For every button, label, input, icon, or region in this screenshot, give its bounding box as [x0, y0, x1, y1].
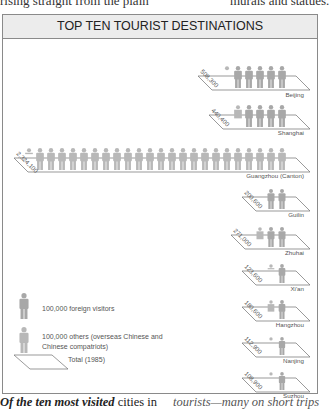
- other-visitor-figure: [113, 148, 121, 170]
- other-visitor-figure: [223, 148, 231, 170]
- foreign-visitor-figure: [279, 300, 286, 319]
- total-value-label: 271,000: [232, 227, 253, 248]
- other-visitor-partial-figure: [257, 227, 264, 239]
- other-visitor-figure: [69, 148, 77, 170]
- foreign-visitor-figure: [245, 66, 253, 88]
- other-visitor-figure: [201, 148, 209, 170]
- city-label: Hangzhou: [276, 321, 305, 328]
- other-visitor-figure: [146, 148, 154, 170]
- other-visitor-partial-figure: [268, 264, 275, 269]
- foreign-visitor-figure: [267, 66, 275, 88]
- total-value-label: 123,600: [243, 263, 264, 284]
- other-visitor-figure: [91, 148, 99, 170]
- foreign-visitor-figure: [278, 66, 286, 88]
- foreign-visitor-figure: [268, 227, 275, 247]
- article-text-bottom-right: tourists—many on short trips: [173, 395, 319, 410]
- other-visitor-figure: [212, 148, 220, 170]
- other-visitor-figure: [267, 148, 275, 170]
- total-value-label: 112,900: [243, 335, 264, 356]
- other-visitor-figure: [168, 148, 176, 170]
- city-label: Guilin: [288, 211, 304, 218]
- foreign-visitor-figure: [279, 337, 285, 355]
- foreign-visitor-figure: [279, 227, 286, 247]
- city-label: Guangzhou (Canton): [246, 172, 304, 179]
- other-visitor-partial-figure: [268, 300, 275, 311]
- other-visitor-figure: [157, 148, 165, 170]
- foreign-visitor-figure: [279, 189, 286, 209]
- legend-label-total: Total (1985): [68, 356, 105, 364]
- total-value-label: 440,400: [210, 107, 231, 128]
- other-visitor-partial-figure: [25, 148, 33, 154]
- other-visitor-partial-figure: [225, 66, 229, 70]
- legend-foreign-visitor-icon: [19, 293, 28, 319]
- foreign-visitor-figure: [279, 264, 286, 283]
- other-visitor-partial-figure: [234, 105, 242, 118]
- bold-lead: Of the ten most visited: [0, 395, 115, 409]
- foreign-visitor-figure: [278, 105, 286, 127]
- article-text-bottom-left: Of the ten most visited cities in: [0, 395, 157, 410]
- other-visitor-figure: [256, 148, 264, 170]
- foreign-visitor-figure: [279, 372, 285, 390]
- foreign-visitor-figure: [256, 66, 264, 88]
- total-value-label: 508,300: [199, 68, 220, 89]
- lead-rest: cities in: [115, 395, 157, 409]
- city-label: Nanjing: [283, 357, 305, 364]
- other-visitor-figure: [124, 148, 132, 170]
- legend-label-other-line2: Chinese compatriots): [42, 343, 108, 351]
- other-visitor-figure: [58, 148, 66, 170]
- city-label: Shanghai: [278, 129, 304, 136]
- other-visitor-figure: [47, 148, 55, 170]
- legend-label-foreign: 100,000 foreign visitors: [42, 305, 115, 313]
- total-value-label: 108,900: [243, 370, 264, 391]
- foreign-visitor-figure: [234, 66, 242, 88]
- other-visitor-figure: [80, 148, 88, 170]
- legend-other-visitor-icon: [19, 327, 28, 353]
- foreign-visitor-figure: [245, 105, 253, 127]
- foreign-visitor-figure: [256, 105, 264, 127]
- other-visitor-figure: [102, 148, 110, 170]
- other-visitor-partial-figure: [269, 337, 272, 340]
- other-visitor-figure: [234, 148, 242, 170]
- other-visitor-figure: [179, 148, 187, 170]
- city-label: Xi'an: [290, 285, 304, 292]
- city-label: Zhuhai: [285, 249, 304, 256]
- total-value-label: 200,600: [243, 189, 264, 210]
- other-visitor-figure: [278, 148, 286, 170]
- legend-total-icon: [14, 355, 68, 369]
- foreign-visitor-figure: [268, 189, 275, 209]
- foreign-visitor-figure: [267, 105, 275, 127]
- legend-label-other-line1: 100,000 others (overseas Chinese and: [42, 333, 163, 341]
- city-label: Beijing: [285, 91, 304, 98]
- total-value-label: 180,600: [243, 299, 264, 320]
- other-visitor-figure: [135, 148, 143, 170]
- other-visitor-figure: [190, 148, 198, 170]
- other-visitor-partial-figure: [269, 372, 272, 375]
- other-visitor-figure: [245, 148, 253, 170]
